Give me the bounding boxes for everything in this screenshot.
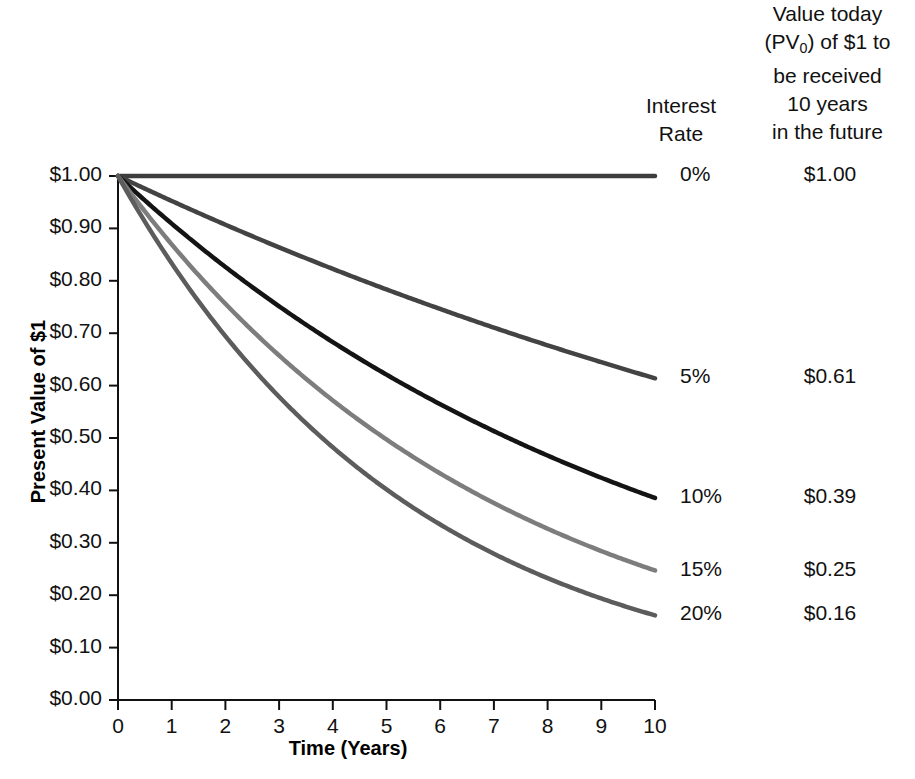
x-tick-label: 9 <box>581 714 621 738</box>
series-line-10pct <box>118 176 655 498</box>
legend-value-10pct: $0.39 <box>760 484 900 508</box>
legend-rate-20pct: 20% <box>680 601 722 625</box>
legend-rate-10pct: 10% <box>680 484 722 508</box>
plot-area <box>0 0 915 779</box>
y-tick-label: $0.40 <box>10 476 102 500</box>
legend-value-15pct: $0.25 <box>760 557 900 581</box>
x-tick-label: 0 <box>98 714 138 738</box>
y-tick-label: $1.00 <box>10 162 102 186</box>
chart-figure: Interest Rate Value today (PV0) of $1 to… <box>0 0 915 779</box>
legend-value-20pct: $0.16 <box>760 601 900 625</box>
legend-rate-5pct: 5% <box>680 364 710 388</box>
legend-value-5pct: $0.61 <box>760 364 900 388</box>
x-tick-label: 6 <box>420 714 460 738</box>
y-tick-label: $0.00 <box>10 686 102 710</box>
x-tick-label: 10 <box>635 714 675 738</box>
x-tick-label: 7 <box>474 714 514 738</box>
y-tick-label: $0.60 <box>10 372 102 396</box>
series-line-20pct <box>118 176 655 615</box>
legend-rate-0pct: 0% <box>680 162 710 186</box>
x-tick-label: 5 <box>367 714 407 738</box>
y-tick-label: $0.30 <box>10 529 102 553</box>
y-tick-label: $0.80 <box>10 267 102 291</box>
y-tick-label: $0.70 <box>10 319 102 343</box>
legend-value-0pct: $1.00 <box>760 162 900 186</box>
y-tick-label: $0.10 <box>10 634 102 658</box>
x-tick-label: 4 <box>313 714 353 738</box>
y-tick-label: $0.90 <box>10 214 102 238</box>
legend-rate-15pct: 15% <box>680 557 722 581</box>
x-tick-label: 2 <box>205 714 245 738</box>
x-tick-label: 1 <box>152 714 192 738</box>
x-tick-label: 8 <box>528 714 568 738</box>
y-tick-label: $0.50 <box>10 424 102 448</box>
y-tick-label: $0.20 <box>10 581 102 605</box>
x-tick-label: 3 <box>259 714 299 738</box>
